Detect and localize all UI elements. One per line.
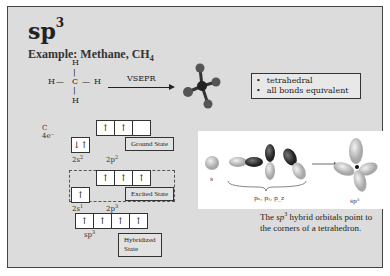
orbital-box: ↑ xyxy=(75,213,94,229)
orbital-box: ↑ xyxy=(114,170,133,186)
atom-h-top: H xyxy=(72,58,79,67)
ground-state-label: Ground State xyxy=(125,137,174,151)
vsepr-label: VSEPR xyxy=(127,74,156,83)
methane-ball-stick-icon xyxy=(180,62,225,112)
lewis-structure: H | H — C — H | H xyxy=(48,64,108,114)
atom-h-right: H xyxy=(94,77,101,86)
slide-title: sp3 xyxy=(28,18,64,44)
orbital-box: ↑ xyxy=(71,187,90,203)
list-item: all bonds equivalent xyxy=(256,86,356,96)
atom-h-bottom: H xyxy=(72,96,79,105)
s-orbital-label: s xyxy=(210,175,213,182)
bond-bottom: | xyxy=(73,86,76,95)
ground-2p-label: 2p2 xyxy=(106,154,118,164)
orbital-box: ↑ xyxy=(93,213,112,229)
slide: sp3 Example: Methane, CH4 H | H — C — H … xyxy=(7,6,383,268)
example-heading: Example: Methane, CH4 xyxy=(28,47,154,63)
orbital-box xyxy=(132,120,151,136)
orbital-box: ↑ xyxy=(96,170,115,186)
orbital-box: ↑ xyxy=(111,213,130,229)
excited-2s-label: 2s1 xyxy=(72,203,83,213)
excited-state-2s-boxes: ↑ xyxy=(72,187,90,203)
bond-top: | xyxy=(73,68,76,77)
list-item: tetrahedral xyxy=(256,76,356,86)
atom-c-center: C xyxy=(72,77,78,86)
hybridized-sp3-boxes: ↑ ↑ ↑ ↑ xyxy=(76,213,148,229)
ground-2s-label: 2s2 xyxy=(72,154,83,164)
arrow-right-icon xyxy=(108,87,173,88)
excited-2p-label: 2p3 xyxy=(106,203,118,213)
excited-state-label: Excited State xyxy=(125,187,174,201)
sp3-label: sp3 xyxy=(84,229,95,239)
ground-state-2p-boxes: ↑ ↑ xyxy=(97,120,151,136)
atom-h-left: H xyxy=(48,77,55,86)
bond-left: — xyxy=(56,77,64,86)
p-orbitals-label: pₓ, pᵧ, p_z xyxy=(254,194,284,201)
orbital-hybridization-figure: s pₓ, pᵧ, p_z sp³ xyxy=(198,131,383,209)
sp3-orbitals-label: sp³ xyxy=(350,197,359,204)
bond-right: — xyxy=(82,77,90,86)
orbital-box: ↑ xyxy=(132,170,151,186)
caption: The sp3 hybrid orbitals point to the cor… xyxy=(260,209,380,234)
orbital-box: ↓↑ xyxy=(71,137,90,153)
orbital-box: ↑ xyxy=(129,213,148,229)
orbital-box: ↑ xyxy=(114,120,133,136)
carbon-label: C 4e⁻ xyxy=(42,124,54,140)
hybridized-state-label: Hybridized State xyxy=(118,233,162,257)
ground-state-2s-boxes: ↓↑ xyxy=(72,137,90,153)
property-list: tetrahedral all bonds equivalent xyxy=(251,73,361,99)
excited-state-2p-boxes: ↑ ↑ ↑ xyxy=(97,170,151,186)
orbital-box: ↑ xyxy=(96,120,115,136)
